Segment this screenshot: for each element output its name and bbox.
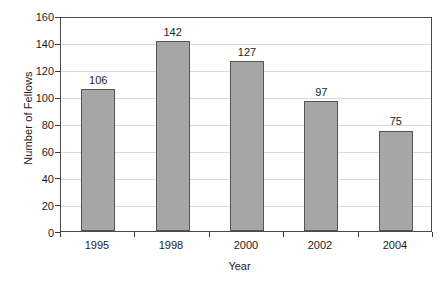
bar-2000[interactable] bbox=[230, 61, 264, 231]
bar-2002[interactable] bbox=[304, 101, 338, 231]
x-tick-mark-1 bbox=[134, 232, 135, 237]
bar-value-1998: 142 bbox=[163, 27, 181, 38]
y-tick-label-20: 20 bbox=[24, 201, 54, 212]
y-tick-label-40: 40 bbox=[24, 174, 54, 185]
bar-slot-1998: 142 bbox=[135, 18, 209, 231]
y-axis-tick-labels: 160 140 120 100 80 60 40 20 0 bbox=[22, 0, 54, 287]
bar-chart: Number of Fellows 160 140 120 100 80 60 … bbox=[0, 0, 447, 287]
x-tick-label-1998: 1998 bbox=[141, 239, 201, 251]
y-tick-label-0: 0 bbox=[24, 228, 54, 239]
y-tick-label-60: 60 bbox=[24, 147, 54, 158]
bar-slot-2004: 75 bbox=[359, 18, 433, 231]
plot-area: 106 142 127 97 75 bbox=[60, 17, 432, 232]
bar-value-2000: 127 bbox=[238, 47, 256, 58]
bar-1998[interactable] bbox=[156, 41, 190, 231]
x-tick-label-2000: 2000 bbox=[216, 239, 276, 251]
bar-slot-2002: 97 bbox=[284, 18, 358, 231]
x-tick-label-1995: 1995 bbox=[67, 239, 127, 251]
x-tick-label-2004: 2004 bbox=[365, 239, 425, 251]
bar-value-2002: 97 bbox=[315, 87, 327, 98]
x-tick-mark-0 bbox=[60, 232, 61, 237]
x-tick-mark-5 bbox=[432, 232, 433, 237]
bar-1995[interactable] bbox=[81, 89, 115, 231]
x-axis-title: Year bbox=[0, 260, 447, 272]
bar-slot-2000: 127 bbox=[210, 18, 284, 231]
x-tick-mark-2 bbox=[209, 232, 210, 237]
y-tick-label-140: 140 bbox=[24, 39, 54, 50]
bar-value-1995: 106 bbox=[89, 75, 107, 86]
x-tick-mark-4 bbox=[358, 232, 359, 237]
y-tick-label-160: 160 bbox=[24, 12, 54, 23]
x-tick-label-2002: 2002 bbox=[290, 239, 350, 251]
y-tick-label-100: 100 bbox=[24, 93, 54, 104]
y-tick-label-80: 80 bbox=[24, 120, 54, 131]
bars-layer: 106 142 127 97 75 bbox=[61, 18, 431, 231]
x-tick-mark-3 bbox=[283, 232, 284, 237]
bar-2004[interactable] bbox=[379, 131, 413, 231]
bar-slot-1995: 106 bbox=[61, 18, 135, 231]
y-tick-label-120: 120 bbox=[24, 66, 54, 77]
bar-value-2004: 75 bbox=[390, 116, 402, 127]
